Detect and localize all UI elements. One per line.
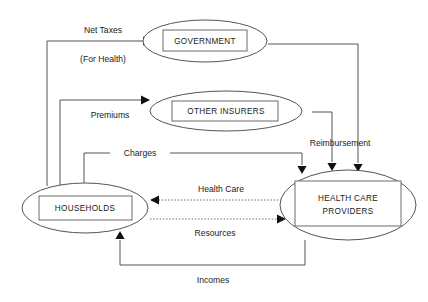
edge-incomes-line [120,240,305,265]
edge-label-net-taxes-sub: (For Health) [80,54,126,64]
edge-incomes-arrowhead [115,231,124,239]
edge-charges-line-right [170,153,302,165]
edge-label-incomes: Incomes [197,275,229,285]
edge-premiums-arrowhead [141,96,150,105]
edge-label-net-taxes: Net Taxes [84,25,122,35]
diagram-canvas: GOVERNMENT OTHER INSURERS HOUSEHOLDS HEA… [0,0,428,302]
circular-flow-diagram: GOVERNMENT OTHER INSURERS HOUSEHOLDS HEA… [0,0,428,302]
node-providers-box [295,181,401,226]
edge-reimbursement-insurers-arrowhead [327,163,336,171]
edge-label-resources: Resources [194,228,235,238]
edge-label-premiums: Premiums [91,110,130,120]
edge-label-charges: Charges [124,148,156,158]
edge-health-care-arrowhead [150,196,159,205]
edge-reimbursement-insurers-line [312,112,332,162]
edge-charges-arrowhead [297,166,306,174]
edge-label-reimbursement: Reimbursement [310,138,371,148]
node-providers-label-line2: PROVIDERS [323,207,374,216]
node-providers-label-line1: HEALTH CARE [318,194,378,203]
edge-label-health-care: Health Care [198,184,244,194]
node-other-insurers-label: OTHER INSURERS [187,107,265,116]
node-households-label: HOUSEHOLDS [55,204,116,213]
node-government-label: GOVERNMENT [174,37,236,46]
